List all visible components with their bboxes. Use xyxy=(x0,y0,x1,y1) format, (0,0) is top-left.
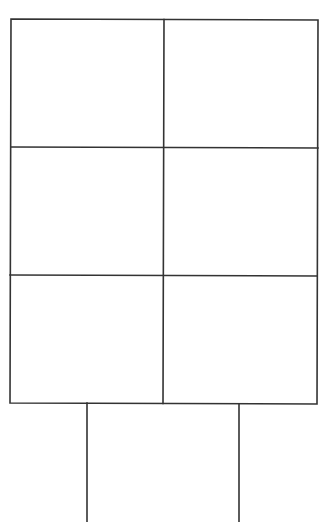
grid-cell-r1-c1 xyxy=(11,19,164,147)
stem-region xyxy=(87,403,239,522)
grid-cell-r2-c2 xyxy=(164,147,318,275)
grid-cell-r3-c2 xyxy=(164,275,318,403)
grid-cell-r2-c1 xyxy=(11,147,164,275)
grid-diagram xyxy=(0,0,322,522)
grid-cell-r1-c2 xyxy=(164,19,318,147)
grid-cell-r3-c1 xyxy=(11,275,164,403)
